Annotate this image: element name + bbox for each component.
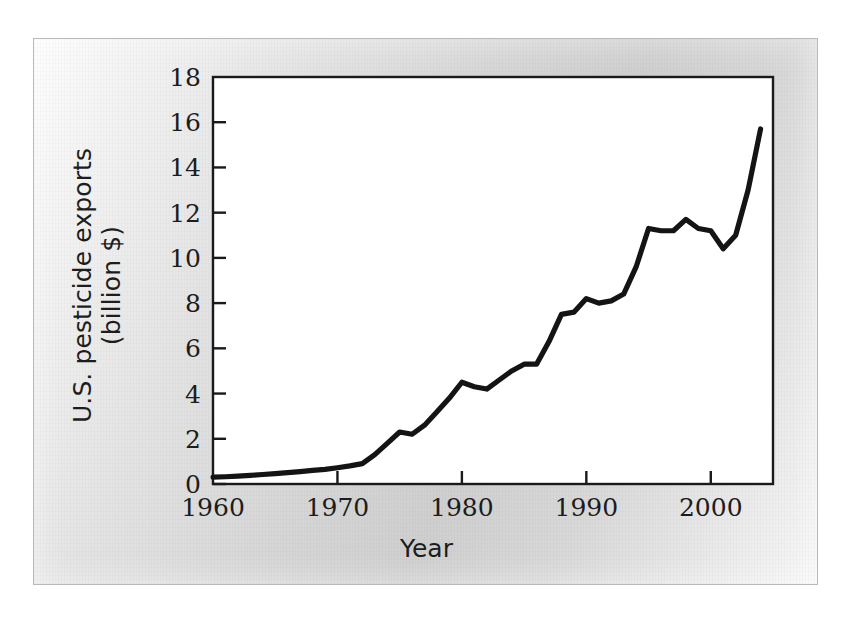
- figure-root: U.S. pesticide exports (billion $) Year …: [0, 0, 853, 642]
- x-axis-tick-labels: 19601970198019902000: [181, 493, 742, 522]
- y-tick-label: 8: [185, 289, 201, 318]
- y-tick-label: 2: [185, 425, 201, 454]
- y-tick-label: 12: [169, 199, 201, 228]
- y-tick-label: 6: [185, 334, 201, 363]
- x-tick-label: 1970: [306, 493, 370, 522]
- y-axis-tick-labels: 024681012141618: [169, 63, 201, 499]
- line-chart: 024681012141618 19601970198019902000: [34, 39, 819, 586]
- y-tick-label: 4: [185, 380, 201, 409]
- x-tick-label: 2000: [679, 493, 743, 522]
- plot-area-background: [213, 77, 773, 484]
- y-tick-label: 18: [169, 63, 201, 92]
- y-tick-label: 14: [169, 153, 201, 182]
- x-tick-label: 1960: [181, 493, 245, 522]
- y-tick-label: 10: [169, 244, 201, 273]
- figure-panel: U.S. pesticide exports (billion $) Year …: [33, 38, 818, 585]
- y-tick-label: 16: [169, 108, 201, 137]
- x-tick-label: 1990: [555, 493, 619, 522]
- x-tick-label: 1980: [430, 493, 494, 522]
